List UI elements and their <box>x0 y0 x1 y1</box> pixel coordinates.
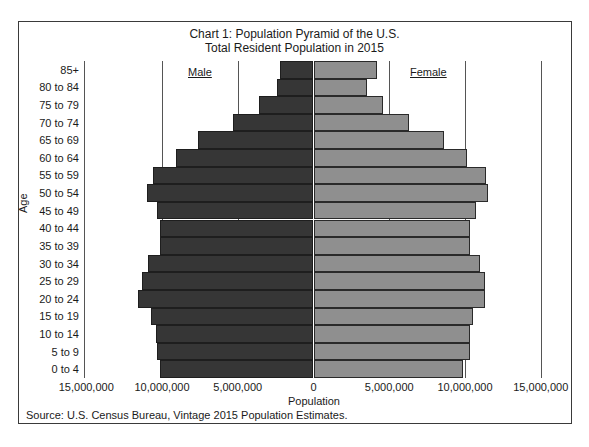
bar-female <box>314 167 487 185</box>
bar-female <box>314 96 384 114</box>
bar-female <box>314 360 464 378</box>
bar-male <box>153 167 314 185</box>
bar-male <box>259 96 314 114</box>
bar-female <box>314 114 409 132</box>
y-tick-label: 80 to 84 <box>9 81 79 93</box>
bar-female <box>314 184 488 202</box>
chart-subtitle: Total Resident Population in 2015 <box>0 41 589 55</box>
bar-male <box>156 325 314 343</box>
y-tick-label: 60 to 64 <box>9 152 79 164</box>
chart-title: Chart 1: Population Pyramid of the U.S. <box>0 27 589 41</box>
y-tick-label: 70 to 74 <box>9 117 79 129</box>
bar-male <box>160 220 313 238</box>
bar-female <box>314 290 485 308</box>
y-tick-label: 15 to 19 <box>9 310 79 322</box>
y-tick-label: 35 to 39 <box>9 240 79 252</box>
y-tick-label: 25 to 29 <box>9 275 79 287</box>
bar-male <box>147 184 314 202</box>
x-tick-label: 15,000,000 <box>46 381 126 393</box>
x-tick-label: 10,000,000 <box>122 381 202 393</box>
y-tick-label: 0 to 4 <box>9 363 79 375</box>
bar-male <box>160 237 313 255</box>
bar-female <box>314 79 367 97</box>
bar-female <box>314 255 481 273</box>
legend-male: Male <box>188 66 212 78</box>
y-tick-label: 30 to 34 <box>9 258 79 270</box>
bar-male <box>176 149 314 167</box>
source-note: Source: U.S. Census Bureau, Vintage 2015… <box>26 409 347 421</box>
bar-male <box>151 308 313 326</box>
bar-female <box>314 308 473 326</box>
legend-female: Female <box>410 66 447 78</box>
bar-male <box>138 290 314 308</box>
bar-female <box>314 131 444 149</box>
gridline <box>541 61 542 378</box>
bar-male <box>157 202 313 220</box>
bar-female <box>314 149 467 167</box>
bar-female <box>314 61 378 79</box>
x-tick-label: 10,000,000 <box>425 381 505 393</box>
bar-male <box>142 272 313 290</box>
bar-male <box>233 114 313 132</box>
y-tick-label: 10 to 14 <box>9 328 79 340</box>
bar-female <box>314 237 470 255</box>
y-tick-label: 40 to 44 <box>9 222 79 234</box>
y-axis-tick-labels: 85+80 to 8475 to 7970 to 7465 to 6960 to… <box>8 61 79 378</box>
x-tick-label: 5,000,000 <box>198 381 278 393</box>
x-axis-label: Population <box>274 395 354 407</box>
bar-male <box>198 131 313 149</box>
y-tick-label: 55 to 59 <box>9 169 79 181</box>
x-tick-label: 5,000,000 <box>349 381 429 393</box>
bar-male <box>160 360 313 378</box>
bar-female <box>314 202 476 220</box>
y-axis-label: Age <box>17 193 29 213</box>
y-tick-label: 65 to 69 <box>9 134 79 146</box>
bar-male <box>157 343 313 361</box>
bar-female <box>314 343 470 361</box>
bar-female <box>314 325 470 343</box>
bar-female <box>314 220 470 238</box>
y-tick-label: 20 to 24 <box>9 293 79 305</box>
bar-male <box>148 255 313 273</box>
y-tick-label: 5 to 9 <box>9 346 79 358</box>
x-tick-label: 0 <box>274 381 354 393</box>
bar-male <box>277 79 313 97</box>
y-axis-line <box>84 61 85 378</box>
y-tick-label: 85+ <box>9 64 79 76</box>
y-tick-label: 75 to 79 <box>9 99 79 111</box>
bar-female <box>314 272 485 290</box>
x-tick-label: 15,000,000 <box>501 381 581 393</box>
bar-male <box>280 61 313 79</box>
